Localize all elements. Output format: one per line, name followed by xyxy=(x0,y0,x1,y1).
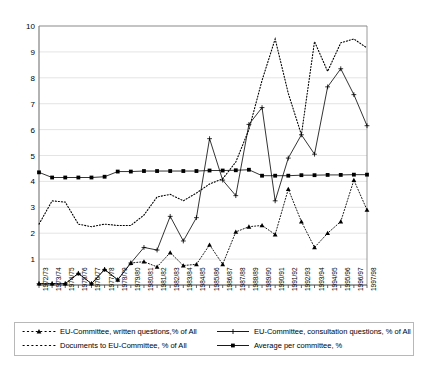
y-axis-tick-label: 3 xyxy=(31,203,36,212)
x-axis-tick-label: 1996/97 xyxy=(357,268,364,292)
line-chart-plot: 12345678910 xyxy=(0,0,429,368)
x-axis-tick-label: 1990/91 xyxy=(278,268,285,292)
y-axis-tick-label: 7 xyxy=(31,100,36,109)
y-axis-tick-label: 9 xyxy=(31,48,36,57)
x-axis-tick-label: 1989/90 xyxy=(265,268,272,292)
y-axis-tick-label: 2 xyxy=(31,229,36,238)
y-axis-tick-label: 5 xyxy=(31,152,36,161)
legend-item-3[interactable]: Documents to EU-Committee, % of All xyxy=(21,341,187,350)
x-axis-tick-label: 1981/82 xyxy=(160,268,167,292)
x-axis-tick-label: 1972/73 xyxy=(42,268,49,292)
y-axis-tick-label: 6 xyxy=(31,126,36,135)
x-axis-tick-label: 1979/80 xyxy=(134,268,141,292)
y-axis-tick-label: 4 xyxy=(31,177,36,186)
y-axis-tick-label: 1 xyxy=(31,255,36,264)
x-axis-tick-label: 1980/81 xyxy=(147,268,154,292)
legend-label: EU-Committee, written questions,% of All xyxy=(60,327,197,336)
x-axis-tick-label: 1973/74 xyxy=(55,268,62,292)
x-axis-tick-label: 1993/94 xyxy=(318,268,325,292)
triangle-marker-icon xyxy=(21,327,57,336)
legend-label: Documents to EU-Committee, % of All xyxy=(60,341,187,350)
square-marker-icon xyxy=(215,341,251,350)
x-axis-tick-label: 1977/78 xyxy=(108,268,115,292)
x-axis-tick-label: 1982/83 xyxy=(173,268,180,292)
x-axis-tick-label: 1984/85 xyxy=(199,268,206,292)
x-axis-tick-label: 1978/79 xyxy=(121,268,128,292)
x-axis-tick-label: 1975/76 xyxy=(81,268,88,292)
x-axis-tick-label: 1988/89 xyxy=(252,268,259,292)
dots-marker-icon xyxy=(21,341,57,350)
x-axis-tick-label: 1976/77 xyxy=(94,268,101,292)
x-axis-tick-label: 1995/96 xyxy=(344,268,351,292)
series-2 xyxy=(39,39,367,227)
x-axis-tick-label: 1985/86 xyxy=(213,268,220,292)
series-3 xyxy=(37,66,370,286)
x-axis-tick-label: 1991/92 xyxy=(291,268,298,292)
legend-item-2[interactable]: EU-Committee, consultation questions, % … xyxy=(215,327,411,336)
legend-item-4[interactable]: Average per committee, % xyxy=(215,341,342,350)
chart-legend: EU-Committee, written questions,% of All… xyxy=(14,322,414,356)
x-axis-tick-label: 1987/88 xyxy=(239,268,246,292)
y-axis-tick-label: 10 xyxy=(26,22,35,31)
x-axis-tick-label: 1992/93 xyxy=(304,268,311,292)
x-axis-tick-label: 1986/87 xyxy=(226,268,233,292)
legend-item-1[interactable]: EU-Committee, written questions,% of All xyxy=(21,327,197,336)
x-axis-tick-label: 1974/75 xyxy=(68,268,75,292)
legend-label: EU-Committee, consultation questions, % … xyxy=(254,327,411,336)
x-axis-tick-label: 1994/95 xyxy=(331,268,338,292)
legend-label: Average per committee, % xyxy=(254,341,342,350)
y-axis-tick-label: 8 xyxy=(31,74,36,83)
chart-container: 12345678910 1972/731973/741974/751975/76… xyxy=(0,0,429,368)
x-axis-tick-label: 1983/84 xyxy=(186,268,193,292)
plus-marker-icon xyxy=(215,327,251,336)
x-axis-tick-label: 1997/98 xyxy=(370,268,377,292)
